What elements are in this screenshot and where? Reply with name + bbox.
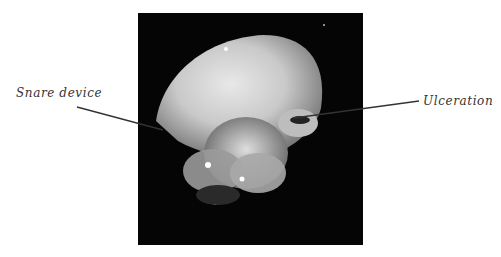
leader-lines xyxy=(0,0,501,257)
ulceration-leader-line xyxy=(294,101,419,118)
snare-leader-line xyxy=(77,107,163,130)
snare-device-label: Snare device xyxy=(16,86,102,100)
ulceration-label: Ulceration xyxy=(423,94,493,108)
